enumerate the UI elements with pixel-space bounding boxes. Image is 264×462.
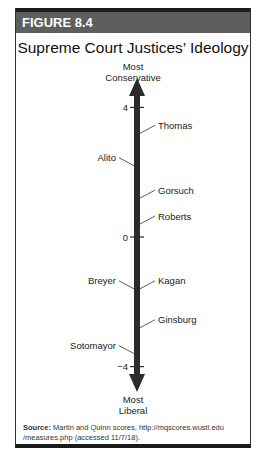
leader-line — [119, 281, 134, 289]
leader-line — [119, 158, 134, 166]
leader-line — [119, 346, 134, 354]
leader-line — [140, 281, 155, 289]
leader-line — [140, 216, 155, 224]
tick-label: 0 — [123, 232, 128, 243]
arrow-up-icon — [129, 78, 145, 96]
leader-line — [140, 320, 155, 328]
justice-label: Ginsburg — [158, 314, 197, 325]
justice-label: Gorsuch — [158, 185, 194, 196]
leader-line — [140, 190, 155, 198]
tick-label: −4 — [117, 361, 128, 372]
leader-line — [140, 125, 155, 133]
justice-label: Kagan — [158, 275, 185, 286]
ideology-axis-chart: 40−4ThomasAlitoGorsuchRobertsBreyerKagan… — [0, 0, 264, 462]
justice-label: Alito — [98, 152, 116, 163]
arrow-down-icon — [129, 374, 145, 392]
justice-label: Sotomayor — [70, 340, 116, 351]
justice-label: Thomas — [158, 120, 193, 131]
tick-label: 4 — [123, 102, 128, 113]
justice-label: Roberts — [158, 211, 192, 222]
justice-label: Breyer — [88, 275, 116, 286]
